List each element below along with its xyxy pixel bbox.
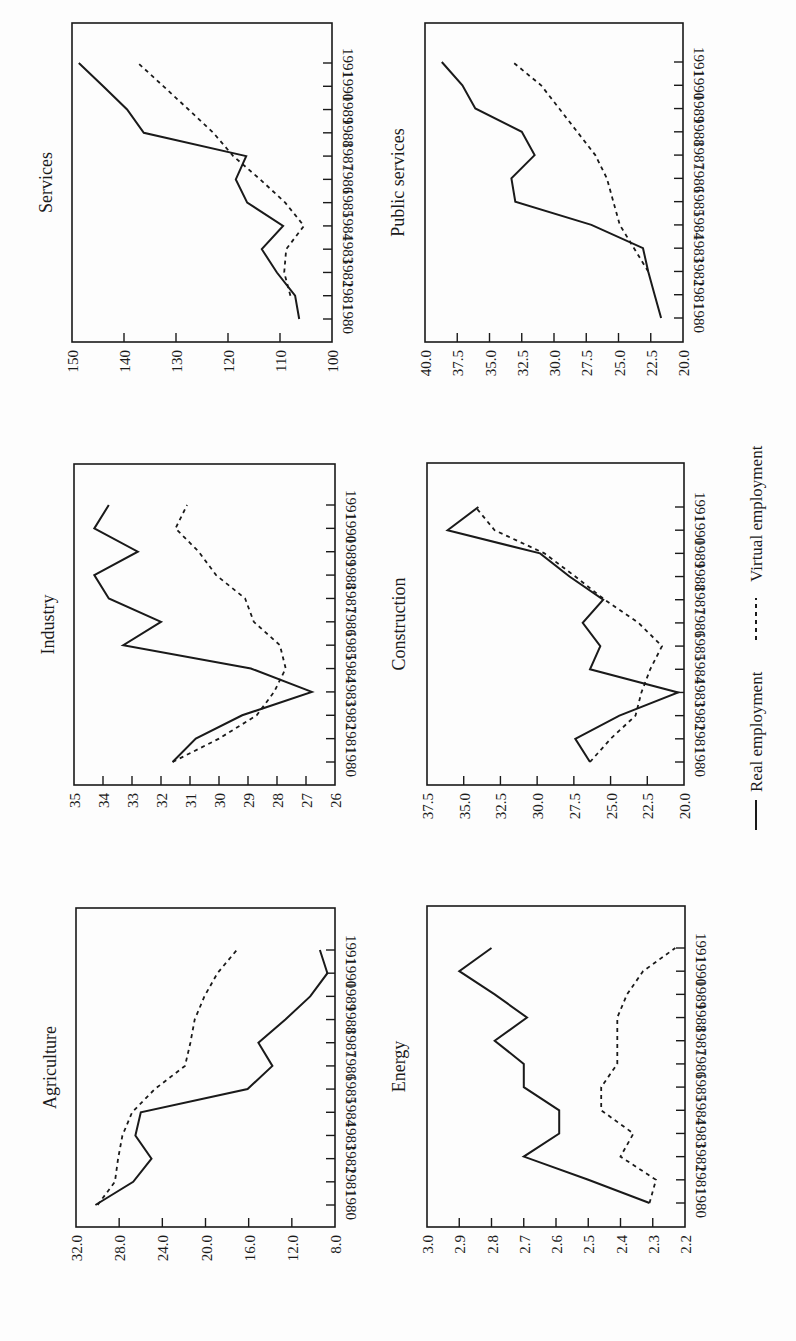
- value-tick-label: 20.0: [677, 793, 693, 819]
- value-tick-label: 33: [125, 793, 141, 808]
- value-tick-label: 20.0: [676, 350, 692, 376]
- value-tick-label: 25.0: [612, 350, 628, 376]
- value-tick-label: 22.5: [640, 793, 656, 819]
- year-tick-label: 1991: [340, 48, 356, 78]
- value-tick-label: 32.5: [493, 793, 509, 819]
- value-tick-label: 2.3: [646, 1235, 662, 1254]
- value-tick-label: 30: [212, 793, 228, 808]
- value-tick-label: 110: [273, 350, 289, 372]
- value-tick-label: 37.5: [450, 350, 466, 376]
- panel-industry: Industry35343332313029282726198019811982…: [38, 464, 359, 808]
- panel-agriculture: Agriculture32.028.024.020.016.012.08.019…: [40, 908, 359, 1261]
- value-tick-label: 27.5: [567, 793, 583, 819]
- real-employment-line: [95, 950, 327, 1205]
- value-tick-label: 130: [169, 350, 185, 373]
- legend-real-label: Real employment: [747, 671, 766, 792]
- virtual-employment-line: [98, 950, 237, 1205]
- value-tick-label: 20.0: [199, 1235, 215, 1261]
- year-tick-label: 1991: [343, 935, 359, 965]
- value-tick-label: 2.5: [581, 1235, 597, 1254]
- virtual-employment-line: [476, 507, 663, 762]
- value-tick-label: 2.6: [549, 1235, 565, 1254]
- year-tick-label: 1991: [693, 933, 709, 963]
- chart-title: Agriculture: [40, 1026, 60, 1109]
- chart-title: Construction: [389, 578, 409, 671]
- value-tick-label: 26: [328, 793, 344, 809]
- legend: Real employment Virtual employment: [747, 445, 766, 830]
- value-tick-label: 31: [183, 793, 199, 808]
- plot-frame: [74, 464, 335, 785]
- virtual-employment-line: [513, 62, 649, 272]
- value-tick-label: 150: [65, 350, 81, 373]
- value-tick-label: 100: [325, 350, 341, 373]
- chart-title: Energy: [389, 1041, 409, 1093]
- year-tick-label: 1991: [343, 490, 359, 520]
- virtual-employment-line: [601, 948, 675, 1203]
- value-tick-label: 32.0: [69, 1235, 85, 1261]
- value-tick-label: 30.0: [530, 793, 546, 819]
- value-tick-label: 22.5: [644, 350, 660, 376]
- real-employment-line: [448, 507, 678, 762]
- chart-title: Services: [36, 152, 56, 213]
- value-tick-label: 32.5: [515, 350, 531, 376]
- value-tick-label: 28.0: [112, 1235, 128, 1261]
- panel-energy: Energy3.02.92.82.72.62.52.42.32.21980198…: [389, 906, 709, 1254]
- value-tick-label: 2.9: [452, 1235, 468, 1254]
- value-tick-label: 32: [154, 793, 170, 808]
- employment-figure: Services15014013012011010019801981198219…: [0, 0, 796, 1341]
- value-tick-label: 35.0: [457, 793, 473, 819]
- value-tick-label: 120: [221, 350, 237, 373]
- value-tick-label: 2.4: [614, 1235, 630, 1254]
- value-tick-label: 35: [67, 793, 83, 808]
- value-tick-label: 37.5: [420, 793, 436, 819]
- value-tick-label: 2.7: [517, 1235, 533, 1254]
- value-tick-label: 2.8: [485, 1235, 501, 1254]
- virtual-employment-line: [138, 63, 304, 296]
- value-tick-label: 140: [117, 350, 133, 373]
- plot-frame: [427, 906, 685, 1227]
- value-tick-label: 8.0: [328, 1235, 344, 1254]
- year-tick-label: 1991: [691, 47, 707, 77]
- panel-services: Services15014013012011010019801981198219…: [36, 23, 356, 373]
- plot-frame: [425, 23, 683, 342]
- real-employment-line: [442, 62, 661, 318]
- plot-frame: [427, 463, 684, 785]
- plot-frame: [76, 908, 335, 1227]
- real-employment-line: [79, 63, 299, 319]
- value-tick-label: 35.0: [483, 350, 499, 376]
- value-tick-label: 12.0: [285, 1235, 301, 1261]
- value-tick-label: 25.0: [604, 793, 620, 819]
- virtual-employment-line: [173, 505, 286, 762]
- chart-title: Public services: [388, 128, 408, 236]
- value-tick-label: 2.2: [678, 1235, 694, 1254]
- value-tick-label: 16.0: [242, 1235, 258, 1261]
- value-tick-label: 27: [299, 793, 315, 809]
- value-tick-label: 27.5: [579, 350, 595, 376]
- value-tick-label: 29: [241, 793, 257, 808]
- value-tick-label: 28: [270, 793, 286, 808]
- value-tick-label: 3.0: [420, 1235, 436, 1254]
- real-employment-line: [94, 505, 311, 762]
- legend-virtual-label: Virtual employment: [747, 445, 766, 582]
- chart-title: Industry: [38, 595, 58, 655]
- year-tick-label: 1991: [692, 492, 708, 522]
- panel-construction: Construction37.535.032.530.027.525.022.5…: [389, 463, 708, 819]
- panel-public-services: Public services40.037.535.032.530.027.52…: [388, 23, 707, 376]
- value-tick-label: 30.0: [547, 350, 563, 376]
- value-tick-label: 24.0: [155, 1235, 171, 1261]
- real-employment-line: [459, 948, 649, 1203]
- value-tick-label: 34: [96, 793, 112, 809]
- value-tick-label: 40.0: [418, 350, 434, 376]
